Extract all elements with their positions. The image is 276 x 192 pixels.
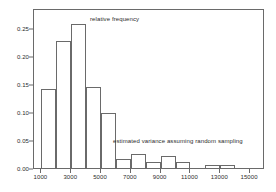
x-axis-tick-mark bbox=[219, 169, 220, 173]
x-axis-tick-mark bbox=[160, 169, 161, 173]
annotation-relative-frequency: relative frequency bbox=[90, 16, 139, 22]
histogram-bar bbox=[86, 87, 101, 168]
histogram-bar bbox=[41, 89, 56, 168]
x-axis-tick-label: 13000 bbox=[211, 174, 228, 180]
histogram-bar bbox=[161, 156, 176, 168]
x-axis-tick-label: 15000 bbox=[241, 174, 258, 180]
x-axis-tick-label: 7000 bbox=[123, 174, 137, 180]
histogram-bar bbox=[205, 165, 220, 168]
x-axis-tick-mark bbox=[70, 169, 71, 173]
x-axis-tick-label: 11000 bbox=[181, 174, 198, 180]
histogram-bar bbox=[146, 162, 161, 168]
histogram-bar bbox=[220, 165, 235, 168]
x-axis-tick-label: 5000 bbox=[93, 174, 107, 180]
x-axis-tick-label: 3000 bbox=[63, 174, 77, 180]
y-axis-tick-marks bbox=[0, 9, 33, 169]
histogram-figure: 0.000.050.100.150.200.25 100030005000700… bbox=[0, 0, 276, 192]
plot-area bbox=[34, 10, 263, 168]
plot-frame bbox=[33, 9, 264, 169]
annotation-estimated-variance: estimated variance assuming random sampl… bbox=[113, 138, 243, 144]
x-axis-tick-mark bbox=[130, 169, 131, 173]
histogram-bar bbox=[176, 162, 191, 168]
x-axis-tick-mark bbox=[189, 169, 190, 173]
x-axis-tick-mark bbox=[40, 169, 41, 173]
histogram-bar bbox=[116, 159, 131, 168]
x-axis-tick-mark bbox=[100, 169, 101, 173]
histogram-bar bbox=[56, 41, 71, 168]
x-axis-tick-label: 9000 bbox=[153, 174, 167, 180]
histogram-bar bbox=[131, 154, 146, 168]
histogram-bar bbox=[71, 24, 86, 168]
x-axis-tick-mark bbox=[249, 169, 250, 173]
x-axis-tick-label: 1000 bbox=[34, 174, 48, 180]
x-axis-tick-labels: 10003000500070009000110001300015000 bbox=[33, 174, 264, 186]
